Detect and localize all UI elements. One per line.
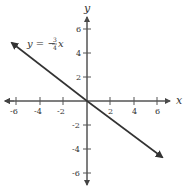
svg-text:-4: -4 [72,145,80,154]
svg-text:6: 6 [76,25,81,34]
function-line [87,101,162,157]
svg-text:6: 6 [155,107,160,116]
svg-text:x: x [58,38,64,49]
svg-text:2: 2 [108,107,113,116]
svg-text:3: 3 [53,36,57,43]
svg-text:4: 4 [76,49,81,58]
svg-text:-2: -2 [57,107,65,116]
svg-text:-2: -2 [72,121,80,130]
y-axis-label: y [83,2,91,15]
svg-text:2: 2 [76,73,81,82]
svg-text:4: 4 [53,44,57,51]
x-tick-labels: -6 -4 -2 2 4 6 [10,107,160,116]
svg-text:-6: -6 [72,169,80,178]
svg-text:y = −: y = − [26,38,56,49]
coordinate-plane: x y -6 -4 -2 2 4 6 6 4 2 -2 -4 -6 [0,0,185,191]
x-axis-label: x [176,94,183,107]
svg-text:-4: -4 [34,107,42,116]
equation-label: y = − 3 4 x [26,36,64,51]
svg-text:4: 4 [132,107,137,116]
svg-text:-6: -6 [10,107,18,116]
